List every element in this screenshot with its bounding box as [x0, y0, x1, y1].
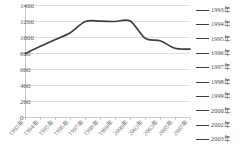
legend-item-label: 1999年	[211, 93, 230, 99]
x-tick-label: 2005年	[156, 119, 175, 138]
y-tick-label: 1000	[20, 34, 35, 42]
legend-item-label: 1994年	[211, 21, 230, 27]
legend-item-label: 1996年	[211, 50, 230, 56]
legend-item[interactable]: 1996年	[196, 48, 230, 58]
x-tick-label: 1998年	[82, 119, 101, 138]
legend-item[interactable]: 2002年	[196, 120, 230, 130]
y-tick-label: 400	[20, 82, 31, 90]
x-tick-label: 2002年	[126, 119, 145, 138]
legend-item-label: 1993年	[211, 7, 230, 13]
legend-swatch-line-icon	[196, 10, 209, 11]
legend-item[interactable]: 1994年	[196, 19, 230, 29]
x-tick-label: 2007年	[171, 119, 190, 138]
x-tick-label: 2003年	[141, 119, 160, 138]
x-tick-label: 1994年	[22, 119, 41, 138]
gridlines	[25, 6, 190, 102]
legend-item[interactable]: 2003年	[196, 135, 230, 145]
chart-legend: 1993年1994年1995年1996年1997年1998年1999年2000年…	[196, 5, 245, 149]
line-chart: 1400 1200 1000 800 600 400 200 0 1993年19…	[0, 0, 245, 153]
y-axis-tick-labels: 1400 1200 1000 800 600 400 200 0	[20, 2, 35, 122]
y-tick-label: 600	[20, 66, 31, 74]
legend-swatch-line-icon	[196, 38, 209, 39]
legend-item[interactable]: 1997年	[196, 63, 230, 73]
legend-swatch-line-icon	[196, 139, 209, 140]
legend-item-label: 2000年	[211, 108, 230, 114]
legend-item-label: 1995年	[211, 36, 230, 42]
legend-item[interactable]: 2000年	[196, 106, 230, 116]
legend-swatch-line-icon	[196, 24, 209, 25]
legend-swatch-line-icon	[196, 67, 209, 68]
legend-swatch-line-icon	[196, 96, 209, 97]
series-line	[26, 20, 191, 53]
legend-swatch-line-icon	[196, 82, 209, 83]
legend-item[interactable]: 1999年	[196, 91, 230, 101]
legend-item-label: 1997年	[211, 64, 230, 70]
legend-item[interactable]: 1993年	[196, 5, 230, 15]
y-tick-label: 200	[20, 98, 31, 106]
legend-swatch-line-icon	[196, 53, 209, 54]
x-axis-tick-labels: 1993年1994年1995年1996年1997年1998年1999年2000年…	[7, 119, 190, 138]
x-tick-label: 1996年	[52, 119, 71, 138]
legend-item-label: 2002年	[211, 122, 230, 128]
legend-item-label: 1998年	[211, 79, 230, 85]
legend-item-label: 2003年	[211, 136, 230, 142]
legend-item[interactable]: 1998年	[196, 77, 230, 87]
x-tick-label: 1995年	[37, 119, 56, 138]
legend-swatch-line-icon	[196, 125, 209, 126]
y-tick-label: 1400	[20, 2, 35, 10]
x-tick-label: 2000年	[111, 119, 130, 138]
legend-swatch-line-icon	[196, 110, 209, 111]
y-tick-label: 1200	[20, 18, 35, 26]
x-tick-label: 1999年	[96, 119, 115, 138]
legend-item[interactable]: 1995年	[196, 34, 230, 44]
x-tick-label: 1997年	[67, 119, 86, 138]
